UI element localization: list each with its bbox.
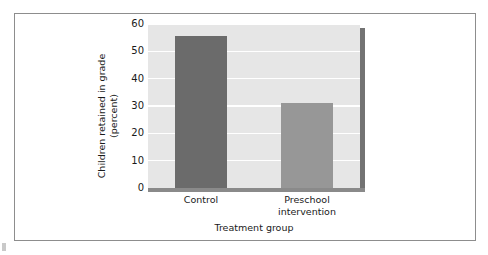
y-tick-label: 40 bbox=[118, 74, 144, 84]
gridline bbox=[148, 23, 360, 25]
x-axis-title: Treatment group bbox=[148, 222, 360, 233]
x-axis-line bbox=[148, 188, 365, 192]
bar bbox=[175, 36, 227, 188]
bar-chart: Children retained in grade (percent) 010… bbox=[0, 0, 488, 255]
y-tick-label: 20 bbox=[118, 128, 144, 138]
y-axis-title-line1: Children retained in grade bbox=[96, 6, 108, 226]
bar bbox=[281, 103, 333, 188]
y-tick-label: 50 bbox=[118, 46, 144, 56]
x-tick-label: Preschoolintervention bbox=[254, 194, 360, 217]
plot-area bbox=[148, 24, 360, 188]
y-axis-title: Children retained in grade (percent) bbox=[96, 6, 120, 226]
x-axis-tick-labels: ControlPreschoolintervention bbox=[148, 194, 360, 224]
y-tick-label: 10 bbox=[118, 156, 144, 166]
y-axis-tick-labels: 0102030405060 bbox=[118, 24, 144, 188]
y-tick-label: 0 bbox=[118, 183, 144, 193]
x-tick-label: Control bbox=[148, 194, 254, 206]
y-tick-label: 60 bbox=[118, 19, 144, 29]
y-tick-label: 30 bbox=[118, 101, 144, 111]
plot-panel-shadow bbox=[360, 28, 365, 192]
